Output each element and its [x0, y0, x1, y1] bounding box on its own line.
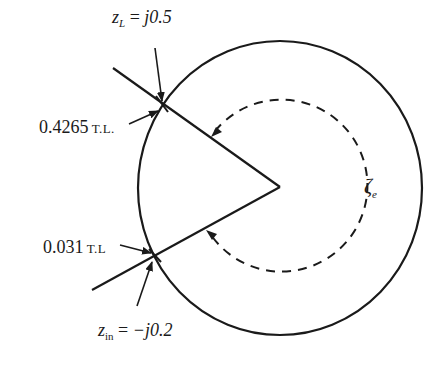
load-wavelength-value: 0.4265 — [39, 117, 89, 137]
diagram-graphics — [0, 0, 444, 365]
load-impedance-label: zL = j0.5 — [112, 8, 172, 29]
arrow-zin — [137, 262, 152, 306]
smith-chart-diagram: zL = j0.5 0.4265 T.L. 0.031 T.L zin = −j… — [0, 0, 444, 365]
dashed-rotation-arc — [209, 100, 367, 272]
zeta-sub: e — [372, 188, 377, 200]
load-wavelength-unit: T.L. — [89, 121, 115, 136]
input-sub: in — [105, 330, 114, 342]
input-wavelength-value: 0.031 — [43, 237, 84, 257]
arrow-input-tl — [120, 245, 151, 253]
load-wavelength-label: 0.4265 T.L. — [39, 118, 114, 136]
input-eq: = — [114, 320, 133, 340]
arc-arrowhead-upper — [211, 127, 222, 137]
input-value: −j0.2 — [133, 320, 173, 340]
arc-arrowhead-lower — [206, 230, 217, 240]
radial-line-input — [92, 187, 280, 290]
input-impedance-label: zin = −j0.2 — [98, 321, 172, 342]
input-var: z — [98, 320, 105, 340]
load-value: j0.5 — [144, 7, 172, 27]
arrow-zl — [155, 48, 162, 101]
electrical-length-label: ζe — [364, 176, 377, 200]
zeta-symbol: ζ — [364, 175, 372, 197]
load-var: z — [112, 7, 119, 27]
input-wavelength-unit: T.L — [84, 241, 106, 256]
load-eq: = — [125, 7, 144, 27]
input-wavelength-label: 0.031 T.L — [43, 238, 106, 256]
